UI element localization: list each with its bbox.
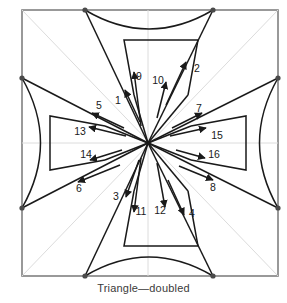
- arrow-label-4: 4: [189, 207, 195, 219]
- arrow-label-9: 9: [136, 70, 142, 82]
- arrow-label-12: 12: [154, 204, 166, 216]
- figure-caption: Triangle—doubled: [0, 282, 287, 294]
- crease-pattern-diagram: 1 2 3 4 5 6 7 8 9 10 11 12 13 14 15 16: [0, 0, 287, 303]
- arrow-label-11: 11: [136, 205, 147, 217]
- vertex-dot-right-top-node: [275, 75, 280, 80]
- arrow-label-13: 13: [74, 125, 86, 137]
- arrow-label-5: 5: [96, 99, 102, 111]
- arrow-label-10: 10: [152, 74, 164, 86]
- vertex-dot-left-top-node: [19, 75, 24, 80]
- vertex-dot-top-right-node: [210, 7, 215, 12]
- arrow-label-6: 6: [76, 182, 82, 194]
- arrow-label-7: 7: [196, 102, 202, 114]
- vertex-dot-left-bottom-node: [19, 205, 24, 210]
- arrow-label-3: 3: [113, 190, 119, 202]
- vertex-dot-top-left-node: [82, 7, 87, 12]
- vertex-dot-bottom-left-node: [82, 273, 87, 278]
- arrow-label-8: 8: [210, 181, 216, 193]
- figure-container: 1 2 3 4 5 6 7 8 9 10 11 12 13 14 15 16 T…: [0, 0, 287, 303]
- vertex-dot-right-bottom-node: [275, 205, 280, 210]
- arrow-label-16: 16: [208, 148, 220, 160]
- vertex-dot-bottom-right-node: [210, 273, 215, 278]
- arrow-label-2: 2: [194, 62, 200, 74]
- arrow-label-14: 14: [80, 148, 92, 160]
- arrow-label-1: 1: [115, 94, 121, 106]
- arrow-label-15: 15: [211, 129, 223, 141]
